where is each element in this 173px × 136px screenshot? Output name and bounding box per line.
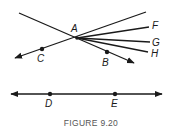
point-e <box>113 92 117 96</box>
label-h: H <box>151 48 159 59</box>
label-d: D <box>45 98 52 109</box>
label-e: E <box>111 98 118 109</box>
point-b <box>105 50 109 54</box>
point-a <box>75 36 79 40</box>
label-a: A <box>70 23 78 34</box>
label-f: F <box>152 20 159 31</box>
label-g: G <box>152 37 160 48</box>
geometry-figure: A C B F G H D E FIGURE 9.20 <box>0 0 173 136</box>
label-c: C <box>37 53 45 64</box>
label-b: B <box>102 57 109 68</box>
point-c <box>40 47 44 51</box>
figure-caption: FIGURE 9.20 <box>64 118 118 128</box>
point-d <box>48 92 52 96</box>
line-ca <box>15 12 146 58</box>
